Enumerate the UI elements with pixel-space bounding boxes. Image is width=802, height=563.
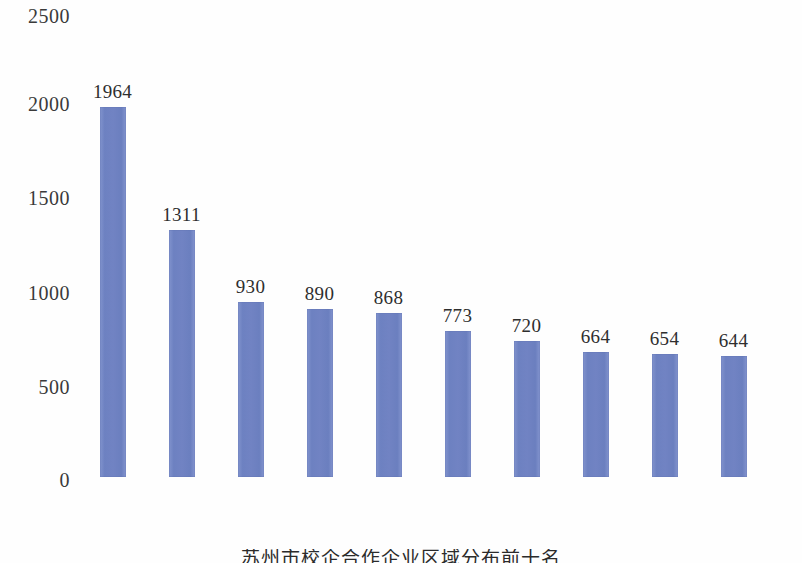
bar-group-9[interactable]: 644 北京	[699, 77, 768, 477]
y-axis: 2500 2000 1500 1000 500 0	[8, 0, 70, 563]
bar-value-label-5: 773	[443, 306, 472, 325]
bar-group-3[interactable]: 890 上海	[285, 77, 354, 477]
y-tick-label-1500: 1500	[8, 188, 70, 208]
bar-group-4[interactable]: 868 常州	[354, 77, 423, 477]
bar-7[interactable]	[583, 352, 609, 477]
bar-value-label-6: 720	[512, 316, 541, 335]
bar-5[interactable]	[445, 331, 471, 477]
bar-value-label-7: 664	[581, 327, 610, 346]
bar-value-label-1: 1311	[162, 205, 201, 224]
y-tick-label-500: 500	[8, 377, 70, 397]
bar-group-6[interactable]: 720 盐城	[492, 77, 561, 477]
bar-group-8[interactable]: 654 徐州	[630, 77, 699, 477]
bar-6[interactable]	[514, 341, 540, 477]
bar-1[interactable]	[169, 230, 195, 477]
bar-value-label-3: 890	[305, 284, 334, 303]
bar-group-1[interactable]: 1311 南京	[147, 77, 216, 477]
bar-value-label-9: 644	[719, 331, 748, 350]
bar-2[interactable]	[238, 302, 264, 477]
y-tick-label-2000: 2000	[8, 94, 70, 114]
chart-page: 2500 2000 1500 1000 500 0 1964 苏州 1311 南…	[0, 0, 802, 563]
bar-8[interactable]	[652, 354, 678, 477]
bar-4[interactable]	[376, 313, 402, 477]
bar-value-label-4: 868	[374, 288, 403, 307]
bar-value-label-0: 1964	[93, 82, 132, 101]
plot-area: 1964 苏州 1311 南京 930 南通 890 上海	[78, 0, 794, 563]
bar-0[interactable]	[100, 107, 126, 477]
y-tick-label-2500: 2500	[8, 6, 70, 26]
y-tick-label-0: 0	[8, 470, 70, 490]
bar-group-2[interactable]: 930 南通	[216, 77, 285, 477]
bar-value-label-2: 930	[236, 277, 265, 296]
chart-caption: 苏州市校企合作企业区域分布前十名	[0, 549, 802, 563]
bar-group-0[interactable]: 1964 苏州	[78, 77, 147, 477]
bar-group-5[interactable]: 773 无锡	[423, 77, 492, 477]
bar-value-label-8: 654	[650, 329, 679, 348]
bar-9[interactable]	[721, 356, 747, 477]
bar-group-7[interactable]: 664 成都	[561, 77, 630, 477]
bar-3[interactable]	[307, 309, 333, 477]
y-tick-label-1000: 1000	[8, 283, 70, 303]
